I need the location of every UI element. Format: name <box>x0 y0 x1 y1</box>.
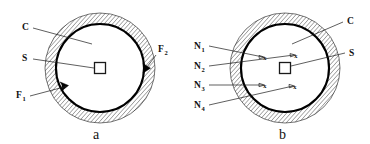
label-panel-b-n1: N 1 <box>194 41 205 53</box>
caption-panel-b: b <box>279 127 286 142</box>
label-panel-a-f1: F 1 <box>16 90 26 102</box>
label-panel-b-n2-sub: 2 <box>202 66 205 73</box>
figure-root: C S F 1 F 2 a <box>0 0 370 144</box>
label-panel-b-n4-base: N <box>194 100 201 110</box>
label-panel-b-n3-sub: 3 <box>202 85 206 92</box>
x-mark-4: x <box>293 83 297 91</box>
x-mark-2: x <box>294 52 298 60</box>
label-panel-a-f2-sub: 2 <box>165 49 168 56</box>
label-panel-a-f1-base: F <box>16 90 22 100</box>
label-panel-b-n2: N 2 <box>194 61 205 73</box>
label-panel-a-f2: F 2 <box>158 44 168 56</box>
label-panel-b-n4: N 4 <box>194 100 206 112</box>
x-mark-3: x <box>263 82 267 90</box>
panel-b: x x x x N 1 N 2 N 3 N 4 C S b <box>194 8 354 142</box>
caption-panel-a: a <box>93 127 100 142</box>
label-panel-b-n1-base: N <box>194 41 201 51</box>
figure-canvas: C S F 1 F 2 a <box>0 0 370 144</box>
label-panel-b-n4-sub: 4 <box>202 105 206 112</box>
label-panel-b-n2-base: N <box>194 61 201 71</box>
label-panel-b-c: C <box>347 16 354 26</box>
panel-a: C S F 1 F 2 a <box>16 8 168 142</box>
label-panel-a-c: C <box>22 22 29 32</box>
panel-b-shaft-square <box>280 63 291 74</box>
panel-a-shaft-square <box>95 63 106 74</box>
label-panel-b-n1-sub: 1 <box>202 46 205 53</box>
label-panel-a-s: S <box>22 53 27 63</box>
label-panel-a-f2-base: F <box>158 44 164 54</box>
x-mark-1: x <box>263 54 267 62</box>
label-panel-b-n3-base: N <box>194 80 201 90</box>
label-panel-b-n3: N 3 <box>194 80 206 92</box>
label-panel-a-f1-sub: 1 <box>23 95 26 102</box>
label-panel-b-s: S <box>349 48 354 58</box>
